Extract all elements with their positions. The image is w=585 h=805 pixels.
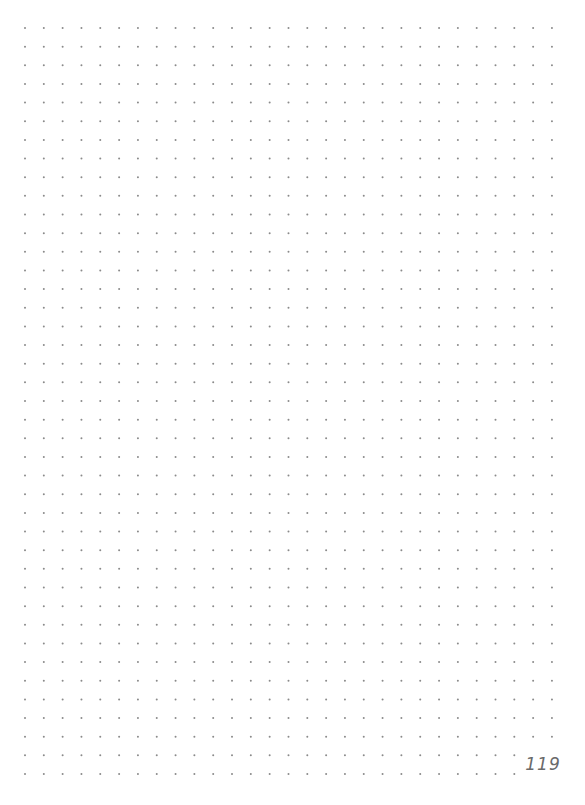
page-number: 119 <box>525 753 561 775</box>
notebook-page: 119 <box>0 0 585 805</box>
dot-grid <box>0 0 585 805</box>
